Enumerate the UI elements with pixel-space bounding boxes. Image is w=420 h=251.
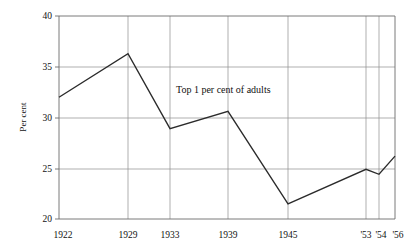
xtick-label-54: '54 (375, 230, 386, 240)
xtick-label-53: '53 (360, 230, 371, 240)
y-axis-tick-labels: 40 35 30 25 20 (43, 11, 53, 224)
ytick-label-25: 25 (43, 164, 53, 174)
ytick-label-35: 35 (43, 62, 53, 72)
ytick-label-20: 20 (43, 214, 53, 224)
plot-background (59, 16, 395, 219)
series-annotation-label: Top 1 per cent of adults (176, 84, 271, 95)
ytick-label-40: 40 (43, 11, 53, 21)
ytick-label-30: 30 (43, 113, 53, 123)
xtick-label-56: '56 (392, 230, 403, 240)
x-axis-tick-labels: 1922 1929 1933 1939 1945 '53 '54 '56 (54, 230, 404, 240)
line-chart: 40 35 30 25 20 Per cent 1922 1929 1933 1… (0, 0, 420, 251)
xtick-label-1929: 1929 (119, 230, 138, 240)
chart-container: 40 35 30 25 20 Per cent 1922 1929 1933 1… (0, 0, 420, 251)
y-axis-title: Per cent (18, 102, 28, 132)
xtick-label-1933: 1933 (161, 230, 180, 240)
xtick-label-1945: 1945 (279, 230, 298, 240)
xtick-label-1922: 1922 (54, 230, 73, 240)
xtick-label-1939: 1939 (219, 230, 238, 240)
y-axis-ticks (55, 16, 59, 219)
